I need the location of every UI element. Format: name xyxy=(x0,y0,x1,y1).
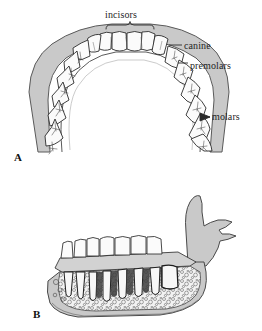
tooth-root xyxy=(103,271,111,301)
tooth-crown xyxy=(131,236,146,255)
label-premolars: premolars xyxy=(190,61,231,71)
tooth-crown xyxy=(61,241,73,258)
tooth-crown xyxy=(100,237,114,256)
tooth-root xyxy=(134,268,143,297)
panel-label-a: A xyxy=(14,152,22,163)
tooth-root xyxy=(118,269,127,299)
incisor-teeth xyxy=(98,31,155,51)
tooth-incisor xyxy=(127,32,142,52)
tooth-incisor xyxy=(112,32,127,52)
tooth-crown xyxy=(115,237,130,256)
tooth-root xyxy=(150,267,160,295)
unerupted-molar xyxy=(162,265,178,289)
panel-label-b: B xyxy=(33,309,40,320)
dentition-figure xyxy=(0,0,262,331)
tooth-crown xyxy=(147,236,162,254)
label-incisors: incisors xyxy=(105,10,137,20)
label-canine: canine xyxy=(184,41,211,51)
tooth-root xyxy=(89,272,97,301)
tooth-crown xyxy=(87,238,99,257)
tooth-crown xyxy=(74,239,86,257)
label-molars: molars xyxy=(212,112,240,122)
